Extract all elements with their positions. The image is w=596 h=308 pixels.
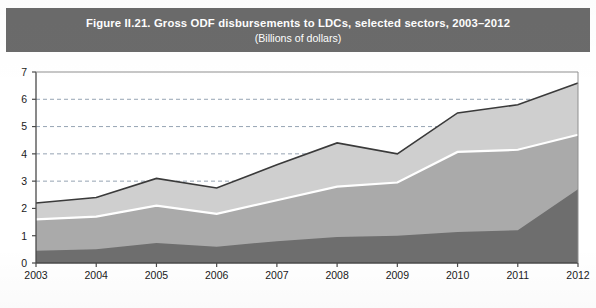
x-axis-tick-label: 2005 (145, 269, 169, 281)
stacked-area-chart: 01234567 2003200420052006200720082009201… (0, 0, 596, 308)
y-axis-tick-label: 0 (21, 257, 27, 269)
x-axis-tick-label: 2010 (446, 269, 470, 281)
chart-canvas: 01234567 2003200420052006200720082009201… (0, 0, 596, 308)
x-axis-tick-label: 2009 (386, 269, 410, 281)
x-axis-tick-label: 2012 (566, 269, 590, 281)
x-axis-tick-label: 2008 (325, 269, 349, 281)
y-axis-tick-label: 4 (21, 148, 27, 160)
x-axis-tick-label: 2007 (265, 269, 289, 281)
x-axis-ticks-group: 2003200420052006200720082009201020112012 (24, 263, 590, 281)
y-axis-tick-label: 5 (21, 120, 27, 132)
x-axis-tick-label: 2006 (205, 269, 229, 281)
y-axis-tick-label: 3 (21, 175, 27, 187)
x-axis-tick-label: 2004 (85, 269, 109, 281)
x-axis-tick-label: 2011 (506, 269, 529, 281)
x-axis-tick-label: 2003 (24, 269, 48, 281)
y-axis-tick-label: 1 (21, 230, 27, 242)
y-axis-ticks-group: 01234567 (21, 66, 36, 269)
y-axis-tick-label: 6 (21, 93, 27, 105)
y-axis-tick-label: 2 (21, 202, 27, 214)
y-axis-tick-label: 7 (21, 66, 27, 78)
